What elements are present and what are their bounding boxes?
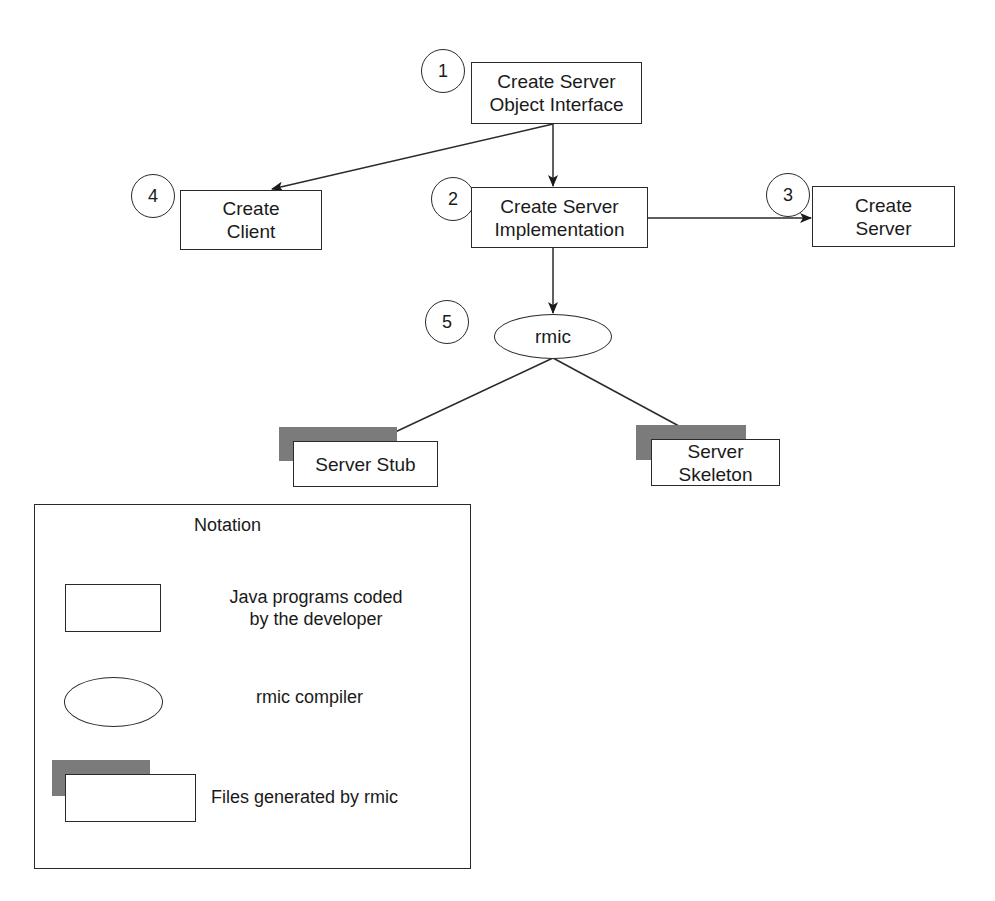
step-number: 3 bbox=[783, 185, 793, 206]
node-label: Server Stub bbox=[315, 453, 415, 476]
legend-ellipse-swatch bbox=[64, 677, 163, 727]
node-create-client: CreateClient bbox=[180, 190, 322, 250]
node-label-line2: Client bbox=[222, 220, 279, 243]
legend-label-rmic-compiler: rmic compiler bbox=[256, 686, 363, 708]
node-label-line1: Create Server bbox=[489, 70, 623, 93]
node-server-stub: Server Stub bbox=[293, 441, 438, 487]
node-label-line2: Server bbox=[855, 217, 912, 240]
legend-file-swatch bbox=[65, 774, 196, 822]
legend-label-line2: by the developer bbox=[206, 608, 426, 630]
step-badge-2: 2 bbox=[431, 177, 475, 221]
step-badge-5: 5 bbox=[425, 300, 469, 344]
step-badge-1: 1 bbox=[421, 49, 465, 93]
node-label-line2: Implementation bbox=[495, 218, 625, 241]
notation-title: Notation bbox=[194, 515, 261, 536]
legend-label-line1: Java programs coded bbox=[206, 586, 426, 608]
edge-1-to-4 bbox=[272, 124, 553, 189]
legend-label-java-programs: Java programs coded by the developer bbox=[206, 586, 426, 630]
step-number: 1 bbox=[438, 61, 448, 82]
step-number: 4 bbox=[148, 186, 158, 207]
step-badge-4: 4 bbox=[131, 174, 175, 218]
node-create-server-implementation: Create ServerImplementation bbox=[471, 187, 648, 248]
node-create-server: CreateServer bbox=[812, 186, 955, 247]
node-label-line1: Create bbox=[222, 197, 279, 220]
node-server-skeleton: Server Skeleton bbox=[651, 439, 780, 486]
node-label-line1: Create Server bbox=[495, 195, 625, 218]
legend-box-swatch bbox=[65, 584, 161, 632]
node-label: rmic bbox=[535, 326, 571, 348]
node-rmic: rmic bbox=[494, 314, 612, 359]
step-number: 2 bbox=[448, 189, 458, 210]
step-badge-3: 3 bbox=[766, 173, 810, 217]
node-label-line2: Object Interface bbox=[489, 93, 623, 116]
node-create-server-object-interface: Create ServerObject Interface bbox=[471, 62, 642, 124]
step-number: 5 bbox=[442, 312, 452, 333]
legend-label-files-generated: Files generated by rmic bbox=[211, 786, 398, 808]
node-label-line1: Create bbox=[855, 194, 912, 217]
edge-5-to-stub bbox=[376, 358, 553, 441]
node-label: Server Skeleton bbox=[652, 440, 779, 486]
